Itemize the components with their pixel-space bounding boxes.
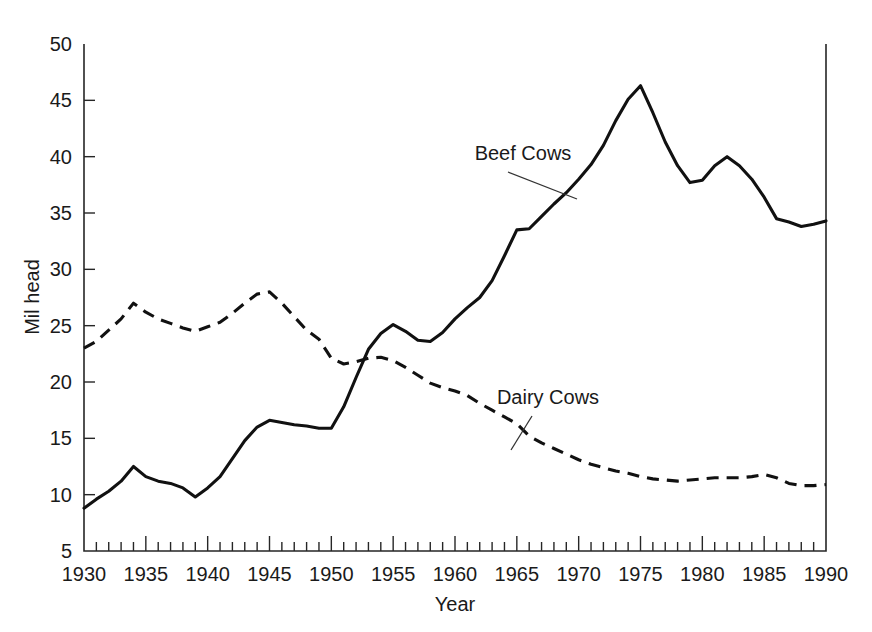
y-tick-label: 25 [50,315,72,337]
x-tick-label: 1985 [742,563,787,585]
x-tick-label: 1970 [556,563,601,585]
x-tick-label: 1980 [680,563,725,585]
y-tick-label: 10 [50,484,72,506]
y-tick-label: 35 [50,202,72,224]
y-tick-label: 5 [61,540,72,562]
cattle-inventory-line-chart: 5101520253035404550 19301935194019451950… [0,0,872,632]
x-tick-label: 1965 [495,563,540,585]
chart-background [0,0,872,632]
x-tick-label: 1935 [124,563,169,585]
y-tick-label: 40 [50,146,72,168]
y-axis-title: Mil head [21,259,43,335]
x-tick-label: 1990 [804,563,849,585]
x-tick-label: 1950 [309,563,354,585]
y-tick-label: 45 [50,89,72,111]
y-tick-label: 30 [50,258,72,280]
dairy-cows-annotation-label: Dairy Cows [497,386,599,408]
x-tick-label: 1940 [185,563,230,585]
y-tick-label: 15 [50,427,72,449]
x-axis-title: Year [435,593,476,615]
y-tick-label: 20 [50,371,72,393]
x-tick-label: 1960 [433,563,478,585]
beef-cows-annotation-label: Beef Cows [475,142,572,164]
x-tick-label: 1930 [62,563,107,585]
y-tick-label: 50 [50,33,72,55]
x-tick-label: 1975 [618,563,663,585]
x-tick-label: 1945 [247,563,292,585]
chart-figure: 5101520253035404550 19301935194019451950… [0,0,872,632]
x-tick-label: 1955 [371,563,416,585]
